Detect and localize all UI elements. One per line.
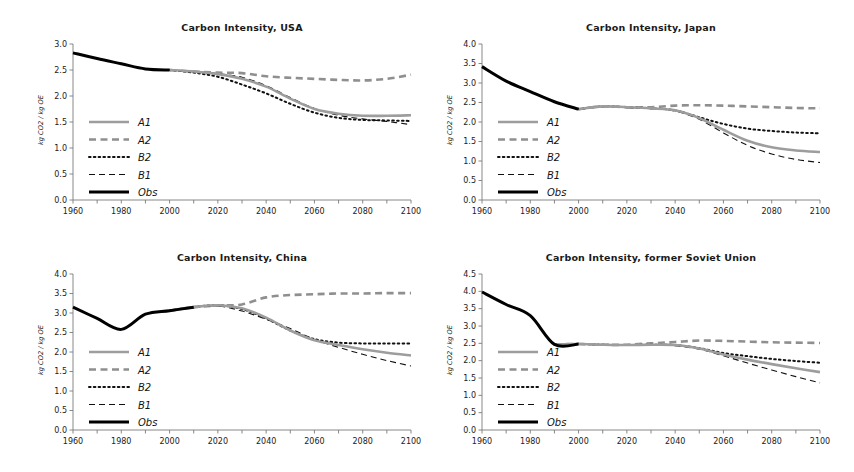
- y-tick-label: 4.0: [463, 287, 476, 296]
- legend-label-b1: B1: [547, 400, 560, 411]
- y-tick-label: 0.5: [463, 408, 476, 417]
- y-tick-label: 2.0: [463, 356, 476, 365]
- y-tick-label: 3.0: [463, 322, 476, 331]
- series-line-b1: [554, 344, 820, 383]
- panel-title-former-soviet-union: Carbon Intensity, former Soviet Union: [422, 252, 854, 263]
- y-tick-label: 0.0: [463, 426, 476, 435]
- y-axis-label-former-soviet-union: kg CO2 / kg OE: [446, 272, 454, 428]
- y-tick-label: 1.0: [463, 391, 476, 400]
- x-tick-label: 2100: [810, 437, 830, 446]
- series-line-a1: [554, 344, 820, 372]
- series-line-obs: [482, 292, 579, 346]
- figure-canvas: Carbon Intensity, USAkg CO2 / kg OE0.00.…: [0, 0, 854, 472]
- legend-label-a1: A1: [546, 347, 560, 358]
- y-tick-label: 3.5: [463, 304, 476, 313]
- x-tick-label: 2080: [762, 437, 782, 446]
- series-line-a2: [554, 341, 820, 345]
- plot-area-former-soviet-union: 0.00.51.01.52.02.53.03.54.04.51960198020…: [0, 0, 854, 472]
- y-tick-label: 4.5: [463, 270, 476, 279]
- x-tick-label: 1980: [520, 437, 540, 446]
- legend-label-obs: Obs: [547, 417, 566, 428]
- chart-panel-former-soviet-union: Carbon Intensity, former Soviet Unionkg …: [0, 0, 854, 472]
- x-tick-label: 2060: [713, 437, 733, 446]
- x-tick-label: 2040: [665, 437, 685, 446]
- series-line-b2: [554, 344, 820, 363]
- x-tick-label: 2000: [568, 437, 588, 446]
- legend-label-a2: A2: [546, 365, 560, 376]
- legend-label-b2: B2: [547, 382, 560, 393]
- x-tick-label: 1960: [472, 437, 492, 446]
- x-tick-label: 2020: [617, 437, 637, 446]
- y-tick-label: 2.5: [463, 339, 476, 348]
- y-tick-label: 1.5: [463, 374, 476, 383]
